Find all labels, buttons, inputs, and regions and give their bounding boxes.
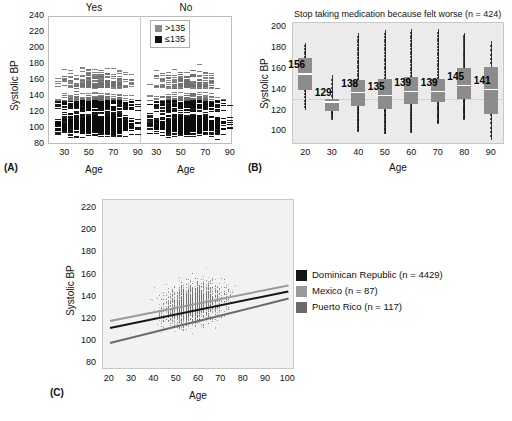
panel-a-observation-tick — [209, 97, 214, 98]
panel-a-observation-tick — [160, 111, 165, 112]
legend-entry-mexico: Mexico (n = 87) — [296, 284, 506, 298]
panel-a-observation-tick — [160, 135, 165, 136]
panel-a-observation-tick — [98, 87, 103, 88]
panel-a-x-tick: 50 — [79, 147, 99, 157]
panel-a-observation-tick — [98, 80, 103, 81]
panel-a-observation-tick — [209, 133, 214, 134]
panel-a-observation-tick — [160, 104, 165, 105]
panel-a-observation-tick — [190, 129, 195, 130]
panel-a-observation-tick — [154, 96, 159, 97]
panel-a-observation-tick — [172, 86, 177, 87]
panel-a-observation-tick — [178, 110, 183, 111]
panel-a-observation-tick — [105, 74, 110, 75]
panel-a-observation-tick — [92, 120, 97, 121]
legend-entry-below-threshold: ≤135 — [155, 34, 185, 45]
panel-b-outlier-point — [437, 57, 439, 59]
panel-a-observation-tick — [55, 78, 60, 79]
panel-a-observation-tick — [123, 136, 128, 137]
panel-a-observation-tick — [154, 106, 159, 107]
panel-c-x-tick: 100 — [277, 373, 297, 383]
panel-a-observation-tick — [68, 124, 73, 125]
panel-a-observation-tick — [215, 102, 220, 103]
panel-a-observation-tick — [160, 86, 165, 87]
panel-a-observation-tick — [190, 133, 195, 134]
panel-a-y-tick: 220 — [16, 26, 44, 36]
panel-a-observation-tick — [92, 125, 97, 126]
panel-a-observation-tick — [111, 113, 116, 114]
panel-a-observation-tick — [203, 124, 208, 125]
panel-a-observation-tick — [92, 81, 97, 82]
panel-a-observation-tick — [92, 74, 97, 75]
panel-a-observation-tick — [86, 129, 91, 130]
panel-a-observation-tick — [227, 120, 232, 121]
panel-a-observation-tick — [62, 114, 67, 115]
panel-a-observation-tick — [190, 104, 195, 105]
panel-a-observation-tick — [74, 129, 79, 130]
panel-a-observation-tick — [209, 82, 214, 83]
panel-a-observation-tick — [160, 75, 165, 76]
panel-a-observation-tick — [117, 81, 122, 82]
panel-a-observation-tick — [86, 108, 91, 109]
panel-a-observation-tick — [117, 71, 122, 72]
panel-a-observation-tick — [123, 117, 128, 118]
panel-a-observation-tick — [197, 92, 202, 93]
panel-b-x-tick: 90 — [479, 147, 503, 157]
panel-b-median-line — [298, 73, 312, 75]
panel-a-observation-tick — [209, 93, 214, 94]
panel-c-y-tick: 200 — [66, 224, 96, 234]
panel-a-observation-tick — [86, 109, 91, 110]
panel-a-observation-tick — [147, 133, 152, 134]
panel-c-y-tick: 80 — [66, 357, 96, 367]
panel-a-x-tick: 90 — [220, 147, 240, 157]
panel-a-observation-tick — [92, 110, 97, 111]
panel-a-observation-tick — [184, 110, 189, 111]
panel-a-observation-tick — [209, 124, 214, 125]
panel-a-observation-tick — [62, 85, 67, 86]
panel-b-median-line — [457, 85, 471, 87]
panel-a-observation-tick — [111, 100, 116, 101]
panel-a-observation-tick — [98, 134, 103, 135]
panel-b-outlier-point — [384, 36, 386, 38]
panel-a-observation-tick — [117, 125, 122, 126]
panel-a-observation-tick — [135, 134, 140, 135]
panel-a-observation-tick — [178, 115, 183, 116]
panel-a-observation-tick — [80, 128, 85, 129]
panel-a-observation-tick — [80, 116, 85, 117]
panel-a-observation-tick — [105, 133, 110, 134]
panel-a-observation-tick — [166, 105, 171, 106]
panel-a-observation-tick — [221, 129, 226, 130]
panel-a-observation-tick — [197, 118, 202, 119]
panel-a-observation-tick — [68, 132, 73, 133]
panel-a-observation-tick — [209, 130, 214, 131]
panel-a-observation-tick — [62, 97, 67, 98]
panel-a-observation-tick — [215, 131, 220, 132]
panel-a-legend: >135 ≤135 — [150, 20, 190, 48]
panel-c-y-tick: 160 — [66, 269, 96, 279]
panel-a-observation-tick — [209, 101, 214, 102]
panel-a-observation-tick — [62, 119, 67, 120]
panel-a-observation-tick — [166, 84, 171, 85]
panel-a-observation-tick — [92, 100, 97, 101]
panel-a-observation-tick — [172, 124, 177, 125]
panel-a-observation-tick — [129, 99, 134, 100]
panel-a-observation-tick — [55, 133, 60, 134]
panel-a-observation-tick — [55, 86, 60, 87]
panel-a-observation-tick — [68, 125, 73, 126]
panel-a-observation-tick — [92, 107, 97, 108]
panel-a-observation-tick — [154, 75, 159, 76]
panel-a-observation-tick — [80, 68, 85, 69]
panel-a-observation-tick — [154, 98, 159, 99]
panel-a-observation-tick — [197, 71, 202, 72]
panel-a-observation-tick — [190, 136, 195, 137]
panel-b-median-line — [431, 91, 445, 93]
panel-a-observation-tick — [129, 86, 134, 87]
panel-c-x-tick: 20 — [99, 373, 119, 383]
panel-a-observation-tick — [62, 130, 67, 131]
panel-a-observation-tick — [86, 82, 91, 83]
panel-a-observation-tick — [203, 92, 208, 93]
panel-a-observation-tick — [111, 135, 116, 136]
panel-a-observation-tick — [123, 105, 128, 106]
panel-b-x-tick: 20 — [293, 147, 317, 157]
panel-a-observation-tick — [203, 130, 208, 131]
panel-a-observation-tick — [147, 104, 152, 105]
